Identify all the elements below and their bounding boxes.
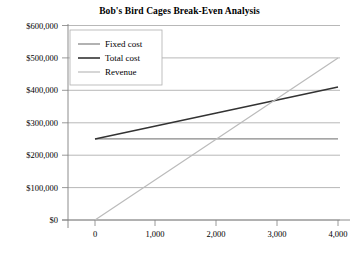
x-axis-ticks (95, 220, 338, 226)
legend-label-revenue: Revenue (105, 67, 137, 77)
x-tick-label-2000: 2,000 (206, 229, 225, 239)
y-tick-label-200000: $200,000 (26, 150, 58, 160)
x-tick-label-4000: 4,000 (328, 229, 347, 239)
series-line-total-cost (95, 87, 338, 139)
y-axis-ticks (62, 26, 68, 221)
legend-label-total-cost: Total cost (105, 53, 141, 63)
chart-legend: Fixed cost Total cost Revenue (70, 30, 162, 85)
y-tick-label-0: $0 (50, 215, 59, 225)
x-tick-label-0: 0 (93, 229, 97, 239)
y-tick-label-400000: $400,000 (26, 85, 58, 95)
x-tick-label-3000: 3,000 (267, 229, 286, 239)
chart-container: Bob's Bird Cages Break-Even Analysis $60 (0, 0, 359, 255)
y-tick-label-100000: $100,000 (26, 183, 58, 193)
y-tick-label-300000: $300,000 (26, 118, 58, 128)
legend-label-fixed-cost: Fixed cost (105, 39, 143, 49)
chart-plot-area: $600,000 $500,000 $400,000 $300,000 $200… (0, 0, 359, 255)
x-tick-label-1000: 1,000 (145, 229, 164, 239)
y-tick-label-500000: $500,000 (26, 53, 58, 63)
y-tick-label-600000: $600,000 (26, 21, 58, 31)
